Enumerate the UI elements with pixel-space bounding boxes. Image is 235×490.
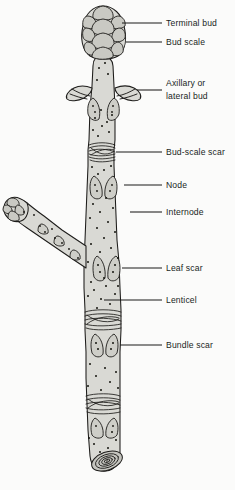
label-bud-scale-scar: Bud-scale scar xyxy=(116,147,225,157)
label-bud-scale: Bud scale xyxy=(126,37,205,47)
label-leaf-scar: Leaf scar xyxy=(122,263,203,273)
axillary-bud-right xyxy=(115,86,141,101)
side-branch xyxy=(3,197,86,268)
label-terminal-bud: Terminal bud xyxy=(122,18,217,28)
label-text-internode: Internode xyxy=(166,207,204,217)
label-text-bundle-scar: Bundle scar xyxy=(166,340,213,350)
terminal-bud xyxy=(82,6,126,59)
label-text-terminal-bud: Terminal bud xyxy=(166,18,217,28)
label-bundle-scar: Bundle scar xyxy=(120,340,213,350)
axillary-bud-left xyxy=(66,86,92,101)
label-node: Node xyxy=(124,180,187,190)
label-internode: Internode xyxy=(130,207,204,217)
label-layer: Terminal budBud scaleAxillary orlateral … xyxy=(104,18,225,350)
label-text-axillary-bud-line2: lateral bud xyxy=(166,91,208,101)
twig-diagram-figure: Terminal budBud scaleAxillary orlateral … xyxy=(0,0,235,490)
label-text-lenticel: Lenticel xyxy=(166,295,197,305)
label-text-axillary-bud: Axillary or xyxy=(166,78,205,88)
label-text-leaf-scar: Leaf scar xyxy=(166,263,203,273)
label-text-bud-scale: Bud scale xyxy=(166,37,205,47)
label-text-bud-scale-scar: Bud-scale scar xyxy=(166,147,225,157)
label-text-node: Node xyxy=(166,180,187,190)
label-axillary-bud: Axillary orlateral bud xyxy=(137,78,208,101)
